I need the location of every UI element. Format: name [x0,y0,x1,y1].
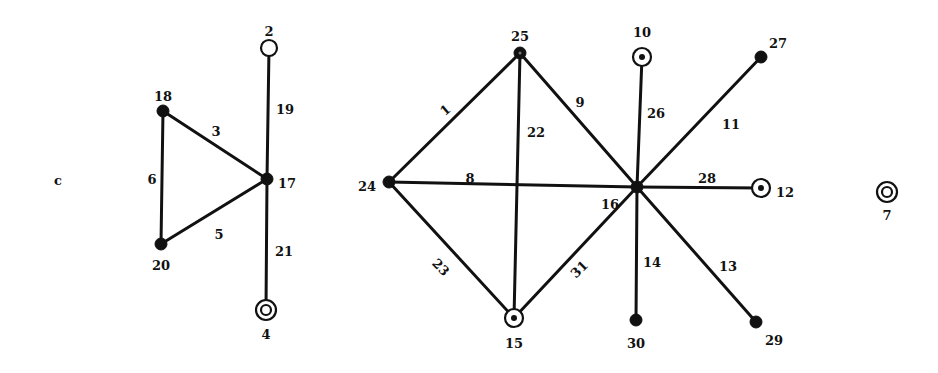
node-25 [514,47,526,59]
node-label: 7 [882,208,891,223]
edge-label: 6 [147,172,156,187]
edge-label: 23 [429,256,452,279]
edge-11 [637,57,761,187]
node-15 [505,309,523,327]
filled-node-icon [261,173,273,185]
edge-9 [520,53,637,187]
edge-14 [636,187,637,320]
node-20 [155,238,167,250]
filled-node-icon [631,181,643,193]
edge-label: 9 [575,95,584,110]
edge-label: 11 [722,117,740,132]
filled-node-icon [630,314,642,326]
center-dot-icon [758,185,764,191]
filled-node-icon [383,176,395,188]
node-label: 24 [358,179,376,194]
edge-label: 21 [275,244,293,259]
node-30 [630,314,642,326]
node-18 [157,105,169,117]
node-27 [755,51,767,63]
filled-node-icon [750,316,762,328]
edge-label: 8 [465,171,474,186]
edge-label: 5 [214,227,223,242]
node-label: 10 [633,25,651,40]
panel-label: c [54,173,62,188]
edge-label: 13 [719,259,737,274]
node-label: 25 [511,29,529,44]
node-label: 20 [152,258,170,273]
filled-node-icon [157,105,169,117]
node-24 [383,176,395,188]
node-16 [631,181,643,193]
edge-6 [161,111,163,244]
edge-26 [637,57,642,187]
open-node-icon [261,40,277,56]
node-10 [633,48,651,66]
node-29 [750,316,762,328]
edge-label: 3 [211,124,220,139]
node-label: 18 [154,89,172,104]
edge-19 [267,48,269,179]
edge-21 [266,179,267,310]
node-4 [256,300,276,320]
edge-label: 28 [698,171,716,186]
edge-28 [637,187,761,188]
edge-label: 31 [568,258,591,281]
edge-label: 1 [437,102,454,119]
node-7 [877,182,897,202]
edge-8 [389,182,637,187]
center-dot-icon [639,54,645,60]
edge-1 [389,53,520,182]
node-label: 4 [261,327,270,342]
filled-node-icon [755,51,767,63]
node-label: 15 [505,336,523,351]
edge-3 [163,111,267,179]
node-label: 27 [769,36,787,51]
center-dot-icon [511,315,517,321]
edge-label: 26 [647,106,665,121]
node-12 [752,179,770,197]
node-2 [261,40,277,56]
node-label: 16 [601,197,619,212]
node-label: 2 [264,24,273,39]
edge-label: 22 [527,125,545,140]
edge-label: 14 [643,255,661,270]
edge-label: 19 [276,102,294,117]
node-label: 29 [765,333,783,348]
edges-layer [161,48,761,322]
node-label: 17 [278,176,296,191]
inner-ring-icon [261,305,271,315]
filled-node-icon [155,238,167,250]
inner-ring-icon [882,187,892,197]
edge-23 [389,182,514,318]
node-label: 12 [776,185,794,200]
center-dot-icon [519,52,522,55]
graph-diagram: c 19365211229823312611281413 21817204252… [0,0,938,373]
node-label: 30 [627,336,645,351]
node-17 [261,173,273,185]
